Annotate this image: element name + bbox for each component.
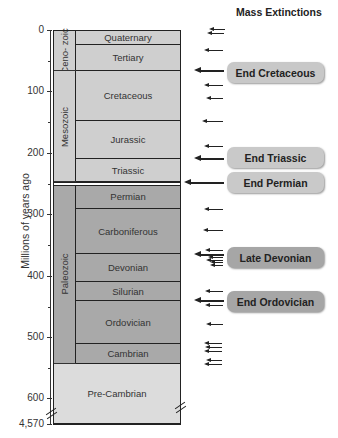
y-axis-tick xyxy=(47,91,52,92)
chart-title: Mass Extinctions xyxy=(236,6,322,18)
y-axis-tick-label: 200 xyxy=(4,147,44,158)
arrow-left-icon xyxy=(208,50,223,51)
extinction-badge: End Cretaceous xyxy=(227,62,324,83)
y-axis-tick-label: 500 xyxy=(4,331,44,342)
extinction-badge: Late Devonian xyxy=(227,247,324,268)
arrow-left-icon xyxy=(190,182,224,184)
y-axis-label: Millions of years ago xyxy=(19,166,31,276)
arrow-left-icon xyxy=(214,262,223,263)
y-axis-tick xyxy=(47,337,52,338)
arrow-left-icon xyxy=(210,324,223,325)
y-axis-tick xyxy=(47,398,52,399)
y-axis-minor-tick xyxy=(48,122,51,123)
y-axis-tick-label: 4,570 xyxy=(4,418,44,429)
y-axis-tick-label: 600 xyxy=(4,392,44,403)
arrow-left-icon xyxy=(208,85,223,86)
arrow-left-icon xyxy=(213,29,225,30)
arrow-left-icon xyxy=(208,209,223,210)
y-axis-line xyxy=(50,30,51,425)
y-axis-tick xyxy=(47,153,52,154)
column-frame xyxy=(53,30,181,425)
arrow-left-icon xyxy=(208,351,222,352)
y-axis-minor-tick xyxy=(48,184,51,185)
extinction-badge: End Permian xyxy=(227,172,324,193)
arrow-left-icon xyxy=(206,121,223,122)
y-axis-tick-label: 0 xyxy=(4,24,44,35)
arrow-left-icon xyxy=(209,305,223,306)
arrow-left-icon xyxy=(212,257,223,258)
y-axis-tick xyxy=(47,276,52,277)
arrow-left-icon xyxy=(208,364,222,365)
arrow-left-icon xyxy=(210,98,223,99)
y-axis-minor-tick xyxy=(48,307,51,308)
y-axis-minor-tick xyxy=(48,245,51,246)
arrow-left-icon xyxy=(200,300,224,302)
arrow-left-icon xyxy=(208,343,222,344)
y-axis-tick xyxy=(47,214,52,215)
arrow-left-icon xyxy=(208,146,223,147)
y-axis-tick xyxy=(47,30,52,31)
arrow-left-icon xyxy=(210,360,222,361)
extinction-badge: End Triassic xyxy=(227,147,324,168)
extinction-badge: End Ordovician xyxy=(227,291,324,312)
y-axis-tick-label: 400 xyxy=(4,270,44,281)
arrow-left-icon xyxy=(214,265,223,266)
y-axis-minor-tick xyxy=(48,61,51,62)
arrow-left-icon xyxy=(200,70,224,72)
arrow-left-icon xyxy=(209,291,223,292)
y-axis-tick xyxy=(47,424,52,425)
y-axis-minor-tick xyxy=(48,368,51,369)
arrow-left-icon xyxy=(209,347,222,348)
y-axis-tick-label: 300 xyxy=(4,208,44,219)
arrow-left-icon xyxy=(207,230,223,231)
arrow-left-icon xyxy=(209,250,223,251)
arrow-left-icon xyxy=(200,158,224,160)
y-axis-tick-label: 100 xyxy=(4,85,44,96)
arrow-left-icon xyxy=(211,33,224,34)
